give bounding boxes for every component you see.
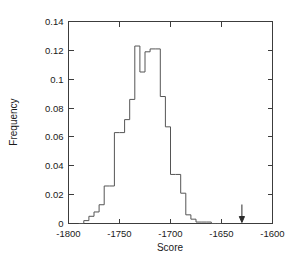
x-tick-label-4: -1600 <box>260 228 284 239</box>
y-tick-label-1: 0.02 <box>45 189 64 200</box>
x-tick-label-0: -1800 <box>56 228 80 239</box>
histogram-plot-svg: -1800-1750-1700-1650-1600 00.020.040.060… <box>0 0 295 266</box>
x-tick-label-3: -1650 <box>209 228 233 239</box>
x-tick-label-2: -1700 <box>158 228 182 239</box>
y-axis-title: Frequency <box>8 98 19 145</box>
y-tick-label-7: 0.14 <box>45 16 64 27</box>
y-tick-label-0: 0 <box>58 218 63 229</box>
y-tick-label-2: 0.04 <box>45 160 64 171</box>
x-tick-label-1: -1750 <box>107 228 131 239</box>
y-tick-label-4: 0.08 <box>45 103 64 114</box>
y-tick-label-3: 0.06 <box>45 131 64 142</box>
y-tick-label-5: 0.1 <box>50 74 63 85</box>
y-tick-label-6: 0.12 <box>45 45 64 56</box>
histogram-figure: -1800-1750-1700-1650-1600 00.020.040.060… <box>0 0 295 266</box>
x-axis-title: Score <box>157 242 184 253</box>
